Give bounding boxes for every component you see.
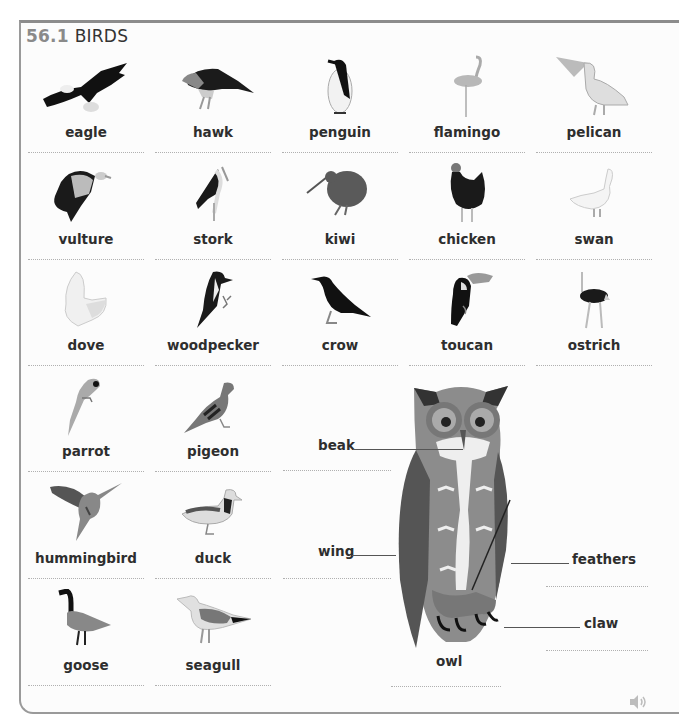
feathers-leader-line xyxy=(511,563,569,564)
answer-line xyxy=(536,152,652,153)
pelican-icon xyxy=(536,50,652,122)
answer-line xyxy=(283,578,391,579)
answer-line xyxy=(391,686,501,687)
answer-line xyxy=(28,259,144,260)
answer-line xyxy=(546,586,648,587)
bird-card-toucan: toucan xyxy=(409,263,525,367)
answer-line xyxy=(536,365,652,366)
answer-line xyxy=(155,578,271,579)
dove-icon xyxy=(28,263,144,335)
bird-card-eagle: eagle xyxy=(28,50,144,154)
bird-label: toucan xyxy=(399,337,535,353)
owl-part-wing-label: wing xyxy=(318,543,354,559)
pigeon-icon xyxy=(155,369,271,441)
parrot-icon xyxy=(28,369,144,441)
bird-label: stork xyxy=(145,231,281,247)
answer-line xyxy=(409,259,525,260)
answer-line xyxy=(155,259,271,260)
answer-line xyxy=(28,365,144,366)
bird-card-ostrich: ostrich xyxy=(536,263,652,367)
woodpecker-icon xyxy=(155,263,271,335)
chicken-icon xyxy=(409,157,525,229)
stork-icon xyxy=(155,157,271,229)
answer-line xyxy=(282,259,398,260)
vulture-icon xyxy=(28,157,144,229)
bird-card-flamingo: flamingo xyxy=(409,50,525,154)
bird-card-swan: swan xyxy=(536,157,652,261)
bird-label: hummingbird xyxy=(18,550,154,566)
owl-part-claw-label: claw xyxy=(584,615,618,631)
ostrich-icon xyxy=(536,263,652,335)
speaker-icon[interactable] xyxy=(629,694,649,710)
answer-line xyxy=(536,259,652,260)
bird-card-chicken: chicken xyxy=(409,157,525,261)
answer-line xyxy=(282,152,398,153)
answer-line xyxy=(155,471,271,472)
bird-label: ostrich xyxy=(526,337,662,353)
bird-card-parrot: parrot xyxy=(28,369,144,473)
answer-line xyxy=(546,650,648,651)
bird-label: goose xyxy=(18,657,154,673)
bird-label: duck xyxy=(145,550,281,566)
bird-label: parrot xyxy=(18,443,154,459)
goose-icon xyxy=(28,583,144,655)
bird-label: dove xyxy=(18,337,154,353)
owl-part-beak-label: beak xyxy=(318,437,355,453)
owl-icon xyxy=(376,380,546,650)
bird-card-duck: duck xyxy=(155,476,271,580)
bird-label: swan xyxy=(526,231,662,247)
bird-card-vulture: vulture xyxy=(28,157,144,261)
seagull-icon xyxy=(155,583,271,655)
section-heading: 56.1BIRDS xyxy=(26,26,128,46)
bird-card-pigeon: pigeon xyxy=(155,369,271,473)
duck-icon xyxy=(155,476,271,548)
bird-label: crow xyxy=(272,337,408,353)
bird-card-hawk: hawk xyxy=(155,50,271,154)
bird-card-hummingbird: hummingbird xyxy=(28,476,144,580)
bird-label: pigeon xyxy=(145,443,281,459)
bird-label: hawk xyxy=(145,124,281,140)
bird-card-crow: crow xyxy=(282,263,398,367)
answer-line xyxy=(283,470,391,471)
answer-line xyxy=(409,365,525,366)
owl-part-feathers-label: feathers xyxy=(572,551,636,567)
section-number: 56.1 xyxy=(26,26,69,46)
answer-line xyxy=(155,365,271,366)
bird-card-goose: goose xyxy=(28,583,144,687)
bird-card-kiwi: kiwi xyxy=(282,157,398,261)
bird-card-pelican: pelican xyxy=(536,50,652,154)
bird-label: chicken xyxy=(399,231,535,247)
bird-card-woodpecker: woodpecker xyxy=(155,263,271,367)
answer-line xyxy=(155,685,271,686)
bird-card-seagull: seagull xyxy=(155,583,271,687)
hummingbird-icon xyxy=(28,476,144,548)
claw-leader-line xyxy=(504,627,580,628)
beak-leader-line xyxy=(353,449,463,450)
bird-label: kiwi xyxy=(272,231,408,247)
answer-line xyxy=(28,578,144,579)
flamingo-icon xyxy=(409,50,525,122)
bird-label: vulture xyxy=(18,231,154,247)
owl-title-label: owl xyxy=(436,653,462,669)
answer-line xyxy=(28,685,144,686)
answer-line xyxy=(282,365,398,366)
bird-label: flamingo xyxy=(399,124,535,140)
eagle-icon xyxy=(28,50,144,122)
bird-card-penguin: penguin xyxy=(282,50,398,154)
kiwi-icon xyxy=(282,157,398,229)
penguin-icon xyxy=(282,50,398,122)
bird-label: woodpecker xyxy=(145,337,281,353)
wing-leader-line xyxy=(352,555,396,556)
answer-line xyxy=(409,152,525,153)
bird-card-dove: dove xyxy=(28,263,144,367)
bird-label: eagle xyxy=(18,124,154,140)
answer-line xyxy=(28,471,144,472)
swan-icon xyxy=(536,157,652,229)
crow-icon xyxy=(282,263,398,335)
bird-card-stork: stork xyxy=(155,157,271,261)
answer-line xyxy=(28,152,144,153)
bird-label: pelican xyxy=(526,124,662,140)
bird-label: seagull xyxy=(145,657,281,673)
answer-line xyxy=(155,152,271,153)
bird-label: penguin xyxy=(272,124,408,140)
